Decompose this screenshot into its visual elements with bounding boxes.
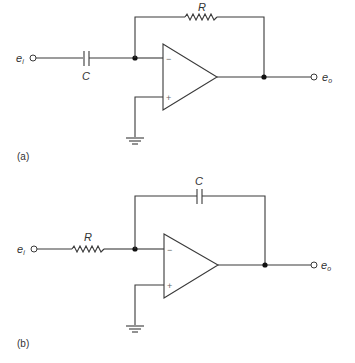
input-label-a: ei <box>16 52 24 65</box>
ground-wire-a <box>135 97 163 137</box>
output-terminal-b <box>311 262 317 268</box>
feedback-capacitor-b <box>197 189 202 204</box>
output-junction-b <box>262 262 267 267</box>
input-label-b: ei <box>17 243 25 256</box>
ground-icon-a <box>126 138 144 144</box>
panel-a-differentiator: ei C R − + eo ( <box>16 1 332 162</box>
capacitor-label-a: C <box>82 70 90 82</box>
noninverting-pin-b: + <box>167 281 172 291</box>
input-terminal-a <box>30 55 36 61</box>
panel-b-integrator: ei R C − + eo (b) <box>17 175 331 349</box>
circuit-figure: ei C R − + eo ( <box>0 0 355 363</box>
panel-caption-b: (b) <box>17 338 29 349</box>
capacitor-label-b: C <box>195 175 203 187</box>
inverting-pin-b: − <box>167 245 172 255</box>
output-label-a: eo <box>322 71 332 84</box>
output-terminal-a <box>311 74 317 80</box>
feedback-resistor-a <box>185 14 217 20</box>
output-label-b: eo <box>321 259 331 272</box>
resistor-label-a: R <box>198 1 206 13</box>
noninverting-pin-a: + <box>166 93 171 103</box>
feedback-wire-right-b <box>202 196 265 265</box>
inverting-pin-a: − <box>166 54 171 64</box>
input-resistor-b <box>72 246 104 252</box>
resistor-label-b: R <box>84 231 92 243</box>
feedback-wire-left-a <box>135 17 185 58</box>
input-terminal-b <box>31 246 37 252</box>
ground-wire-b <box>135 285 164 325</box>
ground-icon-b <box>126 326 144 332</box>
output-junction-a <box>261 74 266 79</box>
panel-caption-a: (a) <box>17 151 29 162</box>
feedback-wire-right-a <box>217 17 264 77</box>
feedback-wire-left-b <box>135 196 197 249</box>
input-capacitor-a <box>84 51 89 66</box>
